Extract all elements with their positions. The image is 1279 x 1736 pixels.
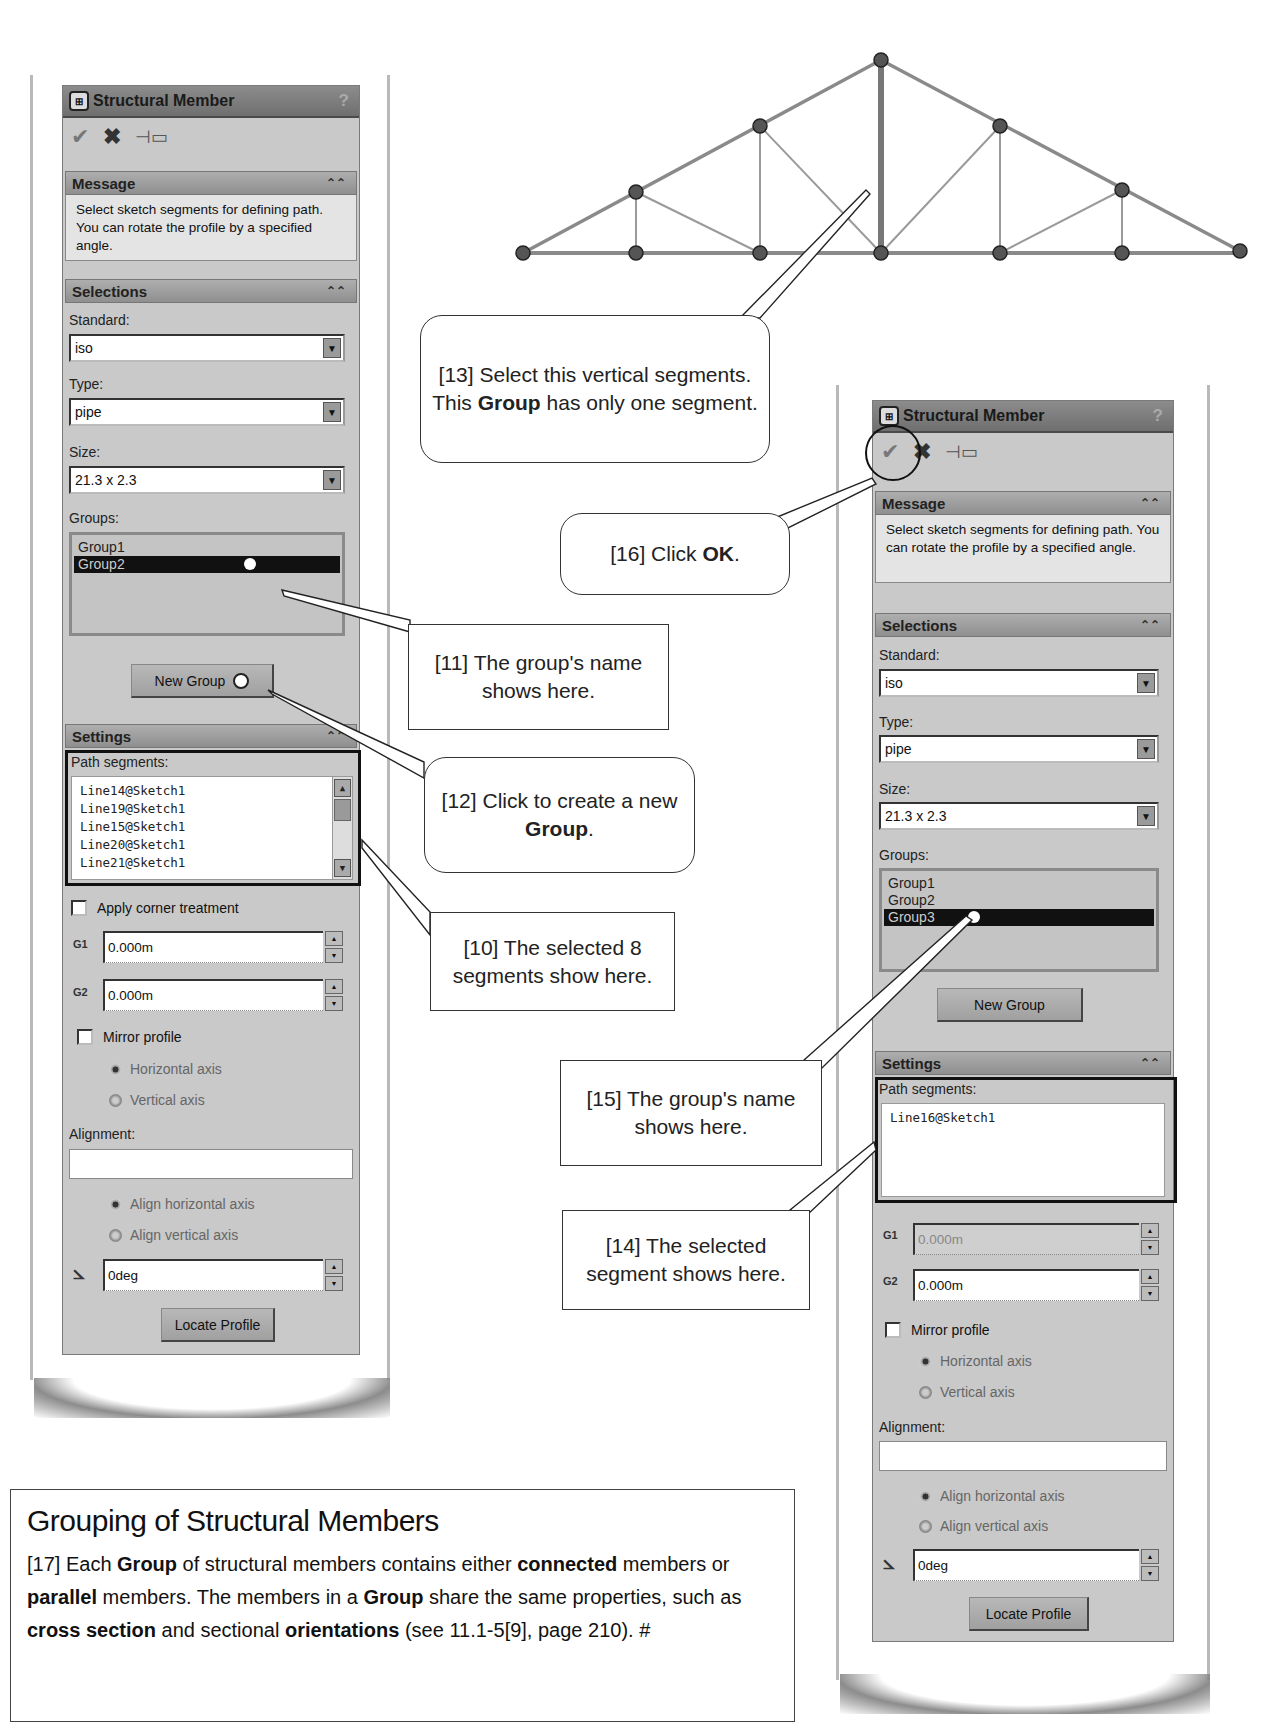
radio-icon[interactable] (919, 1520, 932, 1533)
mirror-profile-checkbox[interactable]: Mirror profile (77, 1029, 182, 1045)
standard-dropdown[interactable]: iso▼ (879, 669, 1159, 697)
check-icon[interactable]: ✔ (881, 439, 899, 465)
g2-gap-field[interactable]: 0.000m (103, 979, 323, 1011)
spin-down-icon[interactable]: ▼ (1141, 1286, 1159, 1301)
groups-list[interactable]: Group1 Group2 Group3 (879, 868, 1159, 972)
spin-up-icon[interactable]: ▲ (1141, 1549, 1159, 1564)
spin-up-icon[interactable]: ▲ (1141, 1223, 1159, 1238)
vertical-axis-radio[interactable]: Vertical axis (109, 1092, 205, 1108)
settings-section-header[interactable]: Settings ⌃⌃ (875, 1051, 1171, 1075)
collapse-chevron-icon[interactable]: ⌃⌃ (326, 284, 346, 298)
group-item[interactable]: Group1 (884, 875, 1154, 892)
settings-section-header[interactable]: Settings ⌃⌃ (65, 724, 357, 748)
angle-field[interactable]: 0deg (103, 1259, 323, 1291)
locate-profile-button[interactable]: Locate Profile (161, 1308, 275, 1342)
align-vertical-radio[interactable]: Align vertical axis (919, 1518, 1048, 1534)
checkbox-icon[interactable] (885, 1322, 901, 1338)
radio-icon[interactable] (109, 1229, 122, 1242)
g2-gap-field[interactable]: 0.000m (913, 1269, 1139, 1301)
g1-gap-field[interactable]: 0.000m (913, 1223, 1139, 1255)
horizontal-axis-radio[interactable]: Horizontal axis (109, 1061, 222, 1077)
path-segments-list[interactable]: Line14@Sketch1 Line19@Sketch1 Line15@Ske… (71, 776, 353, 880)
x-icon[interactable]: ✖ (103, 124, 121, 150)
checkbox-icon[interactable] (71, 900, 87, 916)
g1-spinner[interactable]: ▲▼ (325, 931, 343, 963)
align-vertical-radio[interactable]: Align vertical axis (109, 1227, 238, 1243)
path-segments-list[interactable]: Line16@Sketch1 (881, 1103, 1165, 1197)
collapse-chevron-icon[interactable]: ⌃⌃ (1140, 618, 1160, 632)
g2-spinner[interactable]: ▲▼ (1141, 1269, 1159, 1301)
groups-list[interactable]: Group1 Group2 (69, 532, 345, 636)
group-item-selected[interactable]: Group3 (884, 909, 1154, 926)
selections-section-header[interactable]: Selections ⌃⌃ (875, 613, 1171, 637)
g2-spinner[interactable]: ▲▼ (325, 979, 343, 1011)
collapse-chevron-icon[interactable]: ⌃⌃ (1140, 1056, 1160, 1070)
spin-up-icon[interactable]: ▲ (1141, 1269, 1159, 1284)
g1-spinner[interactable]: ▲▼ (1141, 1223, 1159, 1255)
mirror-profile-checkbox[interactable]: Mirror profile (885, 1322, 990, 1338)
spin-down-icon[interactable]: ▼ (1141, 1240, 1159, 1255)
scroll-down-icon[interactable]: ▼ (334, 859, 351, 877)
standard-dropdown[interactable]: iso▼ (69, 334, 345, 362)
vertical-axis-radio[interactable]: Vertical axis (919, 1384, 1015, 1400)
radio-selected-icon[interactable] (109, 1063, 122, 1076)
path-segments-scrollbar[interactable]: ▲ ▼ (332, 777, 352, 879)
size-dropdown[interactable]: 21.3 x 2.3▼ (879, 802, 1159, 830)
spin-down-icon[interactable]: ▼ (325, 996, 343, 1011)
chevron-down-icon[interactable]: ▼ (1137, 739, 1155, 759)
g1-gap-field[interactable]: 0.000m (103, 931, 323, 963)
angle-spinner[interactable]: ▲▼ (1141, 1549, 1159, 1581)
angle-field[interactable]: 0deg (913, 1549, 1139, 1581)
message-section-header[interactable]: Message ⌃⌃ (65, 171, 357, 195)
spin-up-icon[interactable]: ▲ (325, 979, 343, 994)
radio-selected-icon[interactable] (919, 1490, 932, 1503)
spin-down-icon[interactable]: ▼ (325, 1276, 343, 1291)
check-icon[interactable]: ✔ (71, 124, 89, 150)
scroll-up-icon[interactable]: ▲ (334, 779, 351, 797)
group-item-selected[interactable]: Group2 (74, 556, 340, 573)
collapse-chevron-icon[interactable]: ⌃⌃ (326, 176, 346, 190)
chevron-down-icon[interactable]: ▼ (323, 470, 341, 490)
spin-up-icon[interactable]: ▲ (325, 1259, 343, 1274)
angle-spinner[interactable]: ▲▼ (325, 1259, 343, 1291)
chevron-down-icon[interactable]: ▼ (1137, 673, 1155, 693)
horizontal-axis-radio[interactable]: Horizontal axis (919, 1353, 1032, 1369)
collapse-chevron-icon[interactable]: ⌃⌃ (1140, 496, 1160, 510)
radio-icon[interactable] (919, 1386, 932, 1399)
align-horizontal-radio[interactable]: Align horizontal axis (919, 1488, 1065, 1504)
path-segment-item[interactable]: Line19@Sketch1 (80, 800, 344, 818)
type-dropdown[interactable]: pipe▼ (69, 398, 345, 426)
path-segment-item[interactable]: Line15@Sketch1 (80, 818, 344, 836)
alignment-field[interactable] (879, 1441, 1167, 1471)
x-icon[interactable]: ✖ (913, 439, 931, 465)
spin-down-icon[interactable]: ▼ (325, 948, 343, 963)
chevron-down-icon[interactable]: ▼ (1137, 806, 1155, 826)
apply-corner-treatment-checkbox[interactable]: Apply corner treatment (71, 900, 239, 916)
spin-up-icon[interactable]: ▲ (325, 931, 343, 946)
help-icon[interactable]: ? (339, 91, 349, 111)
alignment-field[interactable] (69, 1149, 353, 1179)
size-dropdown[interactable]: 21.3 x 2.3▼ (69, 466, 345, 494)
selections-section-header[interactable]: Selections ⌃⌃ (65, 279, 357, 303)
chevron-down-icon[interactable]: ▼ (323, 402, 341, 422)
radio-selected-icon[interactable] (919, 1355, 932, 1368)
radio-selected-icon[interactable] (109, 1198, 122, 1211)
group-item[interactable]: Group1 (74, 539, 340, 556)
path-segment-item[interactable]: Line14@Sketch1 (80, 782, 344, 800)
message-section-header[interactable]: Message ⌃⌃ (875, 491, 1171, 515)
locate-profile-button[interactable]: Locate Profile (969, 1597, 1089, 1631)
pushpin-icon[interactable]: ⊣▭ (945, 441, 978, 463)
pushpin-icon[interactable]: ⊣▭ (135, 126, 168, 148)
align-horizontal-radio[interactable]: Align horizontal axis (109, 1196, 255, 1212)
checkbox-icon[interactable] (77, 1029, 93, 1045)
new-group-button[interactable]: New Group (937, 988, 1083, 1022)
help-icon[interactable]: ? (1153, 406, 1163, 426)
type-dropdown[interactable]: pipe▼ (879, 735, 1159, 763)
new-group-button[interactable]: New Group (131, 664, 274, 698)
path-segment-item[interactable]: Line21@Sketch1 (80, 854, 344, 872)
group-item[interactable]: Group2 (884, 892, 1154, 909)
radio-icon[interactable] (109, 1094, 122, 1107)
path-segment-item[interactable]: Line20@Sketch1 (80, 836, 344, 854)
scroll-thumb[interactable] (334, 799, 351, 821)
path-segment-item[interactable]: Line16@Sketch1 (890, 1109, 1156, 1127)
